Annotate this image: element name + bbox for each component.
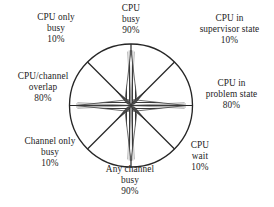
spike-cpu-problem [131, 100, 186, 112]
axis-label-cpu-busy: CPU busy 90% [92, 3, 170, 36]
axis-label-value: 10% [8, 158, 92, 169]
axis-label-line2: wait [175, 151, 225, 162]
axis-label-cpu-wait: CPU wait 10% [175, 140, 225, 173]
axis-label-line2: problem state [189, 89, 274, 100]
axis-label-value: 90% [92, 25, 170, 36]
axis-label-cpu-problem-state: CPU in problem state 80% [189, 78, 274, 111]
axis-label-line1: CPU only [20, 12, 92, 23]
kiviat-diagram-figure: CPU busy 90% CPU in supervisor state 10%… [0, 0, 274, 207]
axis-label-any-channel-busy: Any channel busy 90% [86, 164, 174, 197]
axis-label-value: 10% [185, 35, 274, 46]
axis-label-cpu-only-busy: CPU only busy 10% [20, 12, 92, 45]
spike-any-channel [125, 106, 138, 161]
axis-label-line1: Any channel [86, 164, 174, 175]
axis-label-value: 10% [175, 162, 225, 173]
axis-label-line1: CPU [92, 3, 170, 14]
axis-label-channel-only-busy: Channel only busy 10% [8, 136, 92, 169]
axis-label-cpu-supervisor-state: CPU in supervisor state 10% [185, 13, 274, 46]
axis-label-line2: busy [86, 175, 174, 186]
axis-label-line1: CPU in [189, 78, 274, 89]
spike-cpu-busy [125, 50, 138, 105]
axis-label-value: 80% [189, 100, 274, 111]
axis-label-value: 90% [86, 186, 174, 197]
axis-label-line1: Channel only [8, 136, 92, 147]
axis-label-line2: overlap [0, 82, 86, 93]
axis-label-line2: busy [8, 147, 92, 158]
axis-label-value: 80% [0, 93, 86, 104]
axis-label-value: 10% [20, 34, 92, 45]
axis-label-line1: CPU [175, 140, 225, 151]
axis-label-line2: supervisor state [185, 24, 274, 35]
axis-label-line2: busy [92, 14, 170, 25]
axis-label-line1: CPU/channel [0, 71, 86, 82]
axis-label-line2: busy [20, 23, 92, 34]
axis-label-cpu-channel-overlap: CPU/channel overlap 80% [0, 71, 86, 104]
axis-label-line1: CPU in [185, 13, 274, 24]
